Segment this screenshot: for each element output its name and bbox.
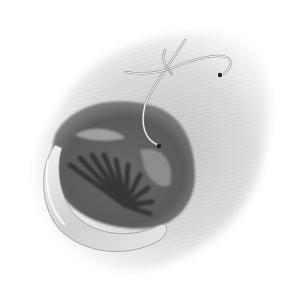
needle-point-upper — [218, 73, 222, 77]
surgical-illustration — [0, 0, 288, 292]
illustration-svg — [0, 0, 288, 292]
needle-point-lower — [157, 144, 161, 148]
